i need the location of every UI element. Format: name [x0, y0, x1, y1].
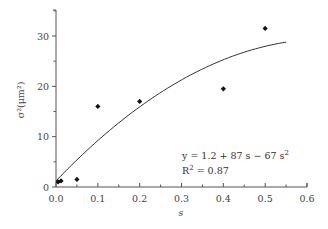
- r-squared-value: = 0.87: [194, 165, 229, 176]
- data-point: [95, 104, 100, 109]
- x-tick-label: 0.3: [174, 193, 189, 204]
- scatter-chart: 0.00.10.20.30.40.50.60102030 s σ²(μm²) y…: [0, 0, 328, 229]
- x-tick-label: 0.5: [258, 193, 273, 204]
- x-tick-label: 0.4: [216, 193, 231, 204]
- data-point: [263, 26, 268, 31]
- y-axis-title: σ²(μm²): [15, 82, 26, 119]
- fit-equation: y = 1.2 + 87 s − 67 s2: [181, 149, 289, 161]
- data-point: [74, 177, 79, 182]
- fit-equation-sup: 2: [284, 149, 288, 157]
- y-tick-label: 0: [43, 182, 49, 193]
- y-tick-label: 20: [37, 81, 49, 92]
- x-tick-label: 0.1: [90, 193, 105, 204]
- fit-equation-text: y = 1.2 + 87 s − 67 s: [181, 150, 285, 161]
- axes: 0.00.10.20.30.40.50.60102030: [37, 10, 315, 204]
- data-point: [137, 99, 142, 104]
- r-squared: R2 = 0.87: [182, 164, 229, 176]
- x-tick-label: 0.0: [48, 193, 63, 204]
- y-tick-label: 30: [37, 31, 49, 42]
- x-tick-label: 0.6: [299, 193, 314, 204]
- data-point: [221, 86, 226, 91]
- x-tick-label: 0.2: [132, 193, 147, 204]
- y-tick-label: 10: [37, 131, 49, 142]
- x-axis-title: s: [179, 207, 184, 218]
